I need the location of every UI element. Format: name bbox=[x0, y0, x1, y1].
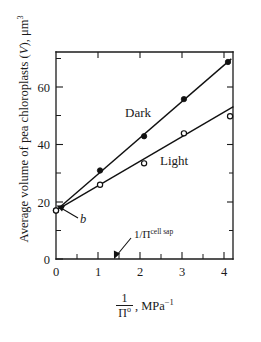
series-label-dark: Dark bbox=[125, 105, 151, 120]
top-axis-ticks bbox=[98, 52, 224, 58]
intercept-arrow-shaft bbox=[61, 208, 78, 218]
x-tick-label-1: 1 bbox=[95, 265, 101, 279]
series-light bbox=[53, 107, 233, 213]
y-axis-title-superscript: 3 bbox=[16, 16, 25, 20]
x-axis-title-unit-base: , MPa bbox=[135, 299, 165, 313]
cell-sap-label-superscript: cell sap bbox=[151, 227, 174, 236]
x-axis-title: 1 Πo , MPa−1 bbox=[56, 292, 234, 319]
y-axis-title: Average volume of pea chloroplasts (V), … bbox=[11, 4, 31, 254]
x-tick-label-3: 3 bbox=[179, 265, 185, 279]
x-axis-title-denominator: Πo bbox=[116, 305, 133, 320]
data-point-light-4 bbox=[227, 114, 232, 119]
y-tick-label-60: 60 bbox=[38, 81, 51, 95]
y-tick-labels: 0 20 40 60 bbox=[38, 81, 51, 267]
y-tick-label-40: 40 bbox=[38, 138, 51, 152]
data-point-dark-1 bbox=[97, 168, 102, 173]
y-axis-title-suffix: ), μm bbox=[17, 20, 31, 47]
series-label-light: Light bbox=[160, 153, 189, 168]
x-axis-title-fraction: 1 Πo bbox=[116, 292, 133, 319]
figure-root: 0 20 40 60 0 1 2 3 4 Dark Light bbox=[0, 0, 261, 342]
intercept-annotation: b bbox=[57, 205, 87, 226]
data-point-dark-2 bbox=[141, 134, 146, 139]
series-light-fit-line bbox=[56, 107, 233, 211]
data-point-light-1 bbox=[97, 182, 102, 187]
data-point-dark-4 bbox=[225, 59, 230, 64]
chart-canvas: 0 20 40 60 0 1 2 3 4 Dark Light bbox=[0, 0, 261, 342]
x-tick-label-2: 2 bbox=[137, 265, 143, 279]
cell-sap-label: 1/Πcell sap bbox=[134, 227, 173, 240]
cell-sap-label-base: 1/Π bbox=[134, 228, 151, 240]
y-axis-title-prefix: Average volume of pea chloroplasts ( bbox=[17, 54, 31, 242]
intercept-label: b bbox=[80, 212, 86, 226]
x-axis-title-unit-superscript: −1 bbox=[165, 297, 174, 307]
y-tick-label-20: 20 bbox=[38, 196, 51, 210]
data-point-dark-3 bbox=[181, 96, 186, 101]
data-point-light-0 bbox=[53, 208, 58, 213]
y-axis-title-variable: V bbox=[17, 47, 31, 55]
x-axis-title-denominator-base: Π bbox=[118, 306, 127, 320]
x-axis-title-denominator-superscript: o bbox=[127, 305, 131, 314]
series-light-points bbox=[53, 114, 232, 213]
data-point-light-2 bbox=[141, 161, 146, 166]
cell-sap-arrow-shaft bbox=[117, 238, 131, 255]
x-tick-label-4: 4 bbox=[221, 265, 228, 279]
y-tick-label-0: 0 bbox=[44, 253, 50, 267]
series-dark bbox=[53, 59, 231, 213]
y-axis-ticks bbox=[56, 59, 63, 260]
x-axis-title-unit: , MPa−1 bbox=[133, 297, 174, 314]
x-tick-label-0: 0 bbox=[53, 265, 59, 279]
cell-sap-annotation: 1/Πcell sap bbox=[114, 227, 174, 259]
x-axis-title-numerator: 1 bbox=[116, 292, 133, 305]
data-point-light-3 bbox=[181, 131, 186, 136]
x-tick-labels: 0 1 2 3 4 bbox=[53, 265, 228, 279]
x-axis-ticks bbox=[77, 252, 224, 259]
